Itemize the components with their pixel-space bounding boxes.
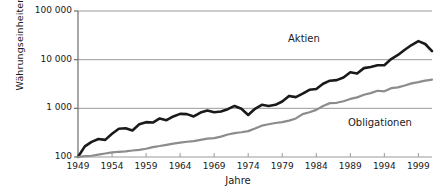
chart-figure: Währungseinheiten 1001 00010 000100 000 … (0, 0, 440, 192)
series-label-obligationen: Obligationen (348, 117, 412, 128)
gridlines (78, 11, 432, 157)
data-series (78, 41, 432, 157)
x-axis-title: Jahre (198, 175, 278, 186)
axis-tick-marks (74, 11, 418, 157)
series-label-aktien: Aktien (288, 33, 320, 44)
chart-plot-area (0, 0, 440, 192)
